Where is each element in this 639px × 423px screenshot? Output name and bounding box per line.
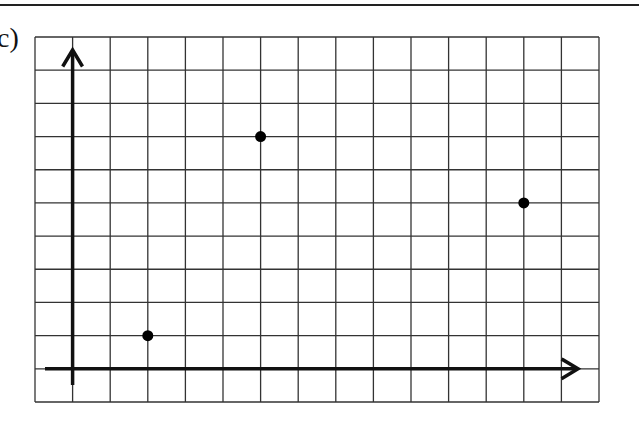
data-point (142, 330, 153, 341)
axes (45, 50, 578, 385)
coordinate-grid (0, 0, 639, 423)
data-point (255, 131, 266, 142)
data-point (518, 197, 529, 208)
grid-lines (35, 37, 599, 402)
